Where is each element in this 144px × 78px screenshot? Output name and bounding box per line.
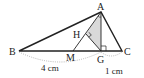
label-gc-length: 1 cm [105, 66, 123, 76]
label-c: C [124, 46, 131, 57]
label-h: H [73, 29, 80, 40]
dimension-arc-bg [19, 52, 101, 62]
triangle-abc [19, 12, 122, 51]
label-g: G [97, 54, 104, 65]
label-bg-length: 4 cm [41, 63, 59, 73]
right-angle-mark-g [101, 46, 106, 51]
geometry-diagram: A B C H M G 4 cm 1 cm [0, 0, 144, 78]
label-m: M [66, 52, 75, 63]
label-b: B [9, 46, 16, 57]
label-a: A [97, 1, 105, 12]
